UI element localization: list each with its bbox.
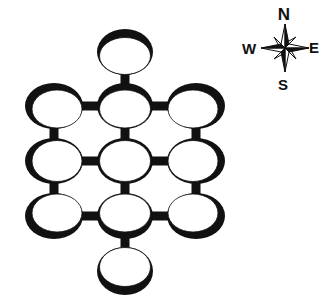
map-diagram: N S E W: [0, 0, 336, 304]
compass-east-label: E: [309, 39, 319, 56]
compass-south-label: S: [278, 76, 288, 93]
room-r7: [25, 193, 83, 239]
compass-rose-icon: N S E W: [242, 5, 319, 93]
room-r5: [97, 138, 153, 184]
room-r4: [25, 138, 83, 184]
compass-west-label: W: [242, 40, 257, 57]
room-r0: [97, 29, 153, 75]
room-r3: [167, 83, 225, 129]
rooms: [25, 29, 225, 295]
room-r2: [97, 83, 153, 129]
room-r10: [97, 247, 153, 295]
compass-north-label: N: [278, 5, 290, 24]
compass-cardinal-points: [261, 24, 309, 72]
room-r6: [167, 138, 225, 184]
room-r9: [167, 193, 225, 239]
room-r1: [25, 83, 83, 129]
room-r8: [97, 193, 153, 239]
